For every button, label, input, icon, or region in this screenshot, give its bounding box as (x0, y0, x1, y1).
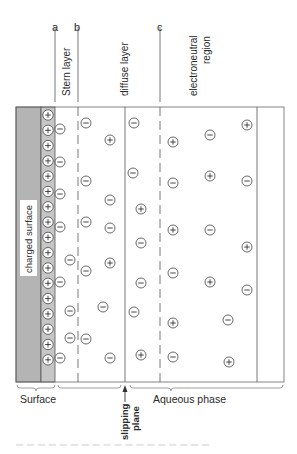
electroneutral-label-line2: region (201, 36, 212, 64)
anion-icon (105, 223, 115, 233)
anion-icon (223, 315, 233, 325)
anion-icon (55, 157, 65, 167)
cation-icon (168, 137, 178, 147)
ions (55, 118, 252, 367)
cation-icon (168, 318, 178, 328)
figure-caption-faint: ▬ ▬ ▬ ▬ ▬ ▬ ▬ ▬ ▬ ▬ ▬ ▬ ▬ ▬ ▬ ▬ ▬ ▬ (16, 440, 286, 447)
anion-icon (136, 278, 146, 288)
anion-icon (81, 217, 91, 227)
anion-icon (168, 352, 178, 362)
anion-icon (55, 222, 65, 232)
anion-icon (205, 225, 215, 235)
surface-cation-icon (43, 232, 53, 242)
stern-layer-label: Stern layer (61, 47, 72, 96)
charged-surface-label: charged surface (23, 205, 34, 273)
anion-icon (55, 124, 65, 134)
anion-icon (55, 353, 65, 363)
electroneutral-label-line1: electroneutral (188, 35, 199, 96)
arrow-head-icon (123, 385, 128, 392)
surface-cation-icon (43, 217, 53, 227)
surface-cation-icon (43, 263, 53, 273)
surface-cation-icon (43, 156, 53, 166)
slipping-label-line1: slipping (119, 403, 130, 440)
marker-c: c (157, 21, 163, 33)
surface-cation-icon (43, 324, 53, 334)
surface-cation-icon (43, 110, 53, 120)
anion-icon (65, 306, 75, 316)
double-layer-diagram: a b c Stern layer diffuse layer electron… (0, 0, 297, 454)
cation-icon (205, 171, 215, 181)
anion-icon (168, 178, 178, 188)
surface-cation-icon (43, 293, 53, 303)
marker-b: b (74, 21, 80, 33)
surface-label: Surface (20, 393, 56, 405)
anion-icon (136, 238, 146, 248)
surface-cation-icon (43, 339, 53, 349)
cation-icon (136, 350, 146, 360)
anion-icon (242, 285, 252, 295)
cation-icon (136, 204, 146, 214)
surface-brace (17, 385, 55, 391)
surface-cation-icon (43, 202, 53, 212)
cation-icon (242, 242, 252, 252)
anion-icon (81, 176, 91, 186)
surface-cation-icon (43, 278, 53, 288)
aqueous-brace-left (58, 385, 121, 388)
slipping-label-line2: plane (130, 406, 141, 431)
marker-a: a (52, 21, 59, 33)
anion-icon (242, 176, 252, 186)
surface-cation-icon (43, 171, 53, 181)
surface-cation-icon (43, 309, 53, 319)
anion-icon (81, 266, 91, 276)
anion-icon (98, 302, 108, 312)
aqueous-phase-label: Aqueous phase (153, 393, 226, 405)
surface-charges (43, 110, 53, 365)
cation-icon (168, 225, 178, 235)
anion-icon (129, 307, 139, 317)
anion-icon (55, 277, 65, 287)
anion-icon (168, 268, 178, 278)
surface-cation-icon (43, 140, 53, 150)
surface-cation-icon (43, 248, 53, 258)
anion-icon (81, 334, 91, 344)
surface-cation-icon (43, 186, 53, 196)
anion-icon (65, 255, 75, 265)
surface-cation-icon (43, 355, 53, 365)
diffuse-layer-label: diffuse layer (119, 42, 130, 96)
anion-icon (65, 333, 75, 343)
aqueous-brace-right (130, 385, 283, 391)
cation-icon (105, 258, 115, 268)
cation-icon (224, 357, 234, 367)
anion-icon (128, 168, 138, 178)
anion-icon (81, 118, 91, 128)
cation-icon (205, 277, 215, 287)
cation-icon (105, 135, 115, 145)
anion-icon (129, 118, 139, 128)
anion-icon (105, 195, 115, 205)
cation-icon (242, 120, 252, 130)
anion-icon (105, 353, 115, 363)
surface-cation-icon (43, 125, 53, 135)
anion-icon (205, 130, 215, 140)
anion-icon (55, 189, 65, 199)
